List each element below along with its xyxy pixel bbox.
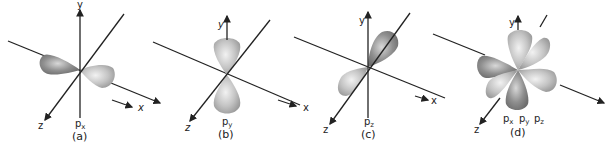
x-axis-label: x: [303, 102, 309, 113]
z-axis: [480, 98, 500, 124]
x-axis-label: x: [137, 102, 144, 113]
panel-caption: (d): [510, 126, 526, 139]
orbital-label-px: px: [503, 113, 514, 126]
z-axis-label: z: [474, 124, 479, 135]
y-axis-label: y: [509, 17, 515, 28]
x-axis-from-c: [415, 96, 428, 100]
panel-c-pz: x y z pz (c): [278, 12, 445, 141]
z-axis-back: [540, 15, 547, 27]
panel-a-px: y z px (a): [8, 0, 160, 143]
x-axis-from-a: [112, 100, 132, 107]
panel-caption: (c): [361, 128, 376, 141]
x-axis-from-b: [278, 100, 296, 106]
panel-b-py: x y z py (b): [112, 16, 300, 141]
panel-d-combined: x y z px py pz (d): [415, 15, 604, 139]
x-axis-label: x: [431, 95, 437, 106]
z-axis: [330, 13, 410, 124]
px-lobe-negative: [40, 54, 80, 74]
z-axis-label: z: [38, 120, 43, 131]
orbital-label-py: py: [519, 113, 530, 126]
x-axis-right: [560, 85, 604, 103]
orbital-label-pz: pz: [534, 113, 544, 126]
p-orbitals-figure: y z px (a) x y z py (b) x y z pz (c) x: [0, 0, 611, 145]
y-axis-label: y: [77, 0, 83, 10]
z-axis-label: z: [323, 124, 328, 135]
px-lobe-positive: [80, 65, 115, 88]
y-axis-label: y: [217, 19, 225, 30]
y-axis-label: y: [359, 15, 365, 26]
panel-caption: (a): [72, 130, 87, 143]
z-axis-label: z: [184, 122, 191, 133]
x-axis-left: [433, 34, 485, 55]
py-lobe-negative: [214, 75, 241, 114]
x-axis: [294, 37, 445, 98]
panel-caption: (b): [218, 128, 234, 141]
